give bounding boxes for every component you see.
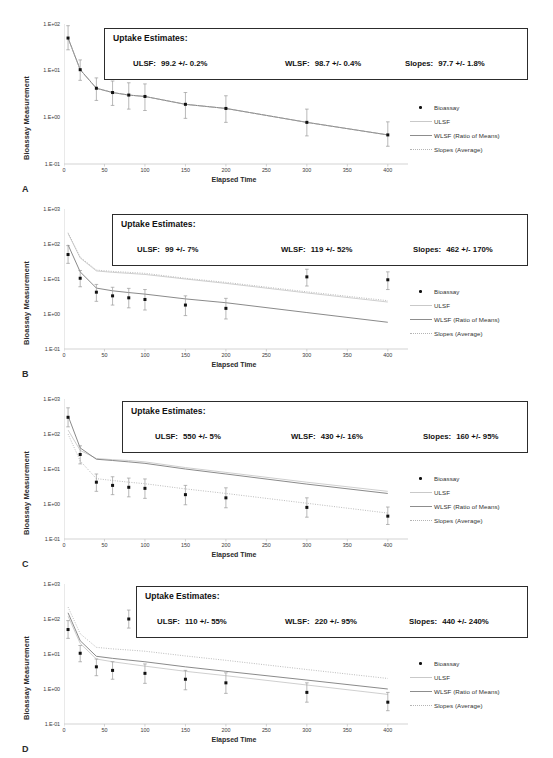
- y-axis-label: Bioassay Measurement: [22, 451, 31, 535]
- legend-item-slopes-average: Slopes (Average): [408, 698, 500, 712]
- estimate-wlsf: WLSF:119 +/- 52%: [281, 245, 353, 254]
- bioassay-marker: [184, 103, 187, 106]
- y-axis-tick: 1.E-01: [26, 721, 60, 727]
- estimate-wlsf: WLSF:98.7 +/- 0.4%: [285, 59, 361, 68]
- legend-label: Slopes (Average): [434, 517, 483, 524]
- y-axis-tick: 1.E+01: [26, 466, 60, 472]
- legend-label: Slopes (Average): [434, 146, 483, 153]
- bioassay-marker: [111, 294, 114, 297]
- data-point: [143, 664, 147, 683]
- line-swatch-ulsf-icon: [408, 116, 434, 126]
- chart-panel-a: Bioassay Measurement1.E+021.E+011.E+001.…: [0, 14, 553, 199]
- bioassay-marker: [67, 416, 70, 419]
- bioassay-marker: [386, 278, 389, 281]
- y-axis-tick: 1.E+02: [26, 241, 60, 247]
- panel-letter-d: D: [22, 744, 29, 754]
- data-point: [127, 83, 131, 109]
- bioassay-marker: [111, 484, 114, 487]
- y-axis-tick: 1.E-01: [26, 346, 60, 352]
- legend-item-wlsf-ratio-of-means: WLSF (Ratio of Means): [408, 128, 500, 142]
- legend-label: Bioassay: [434, 475, 460, 482]
- uptake-estimates-title: Uptake Estimates:: [131, 406, 206, 416]
- legend-label: Slopes (Average): [434, 702, 483, 709]
- y-axis-tick: 1.E+03: [26, 206, 60, 212]
- estimate-wlsf: WLSF:430 +/- 16%: [291, 432, 363, 441]
- panel-letter-a: A: [22, 184, 29, 194]
- y-axis-tick: 1.E+00: [26, 501, 60, 507]
- estimate-value: 97.7 +/- 1.8%: [438, 59, 485, 68]
- bioassay-marker: [143, 95, 146, 98]
- chart-legend: BioassayULSFWLSF (Ratio of Means)Slopes …: [408, 471, 500, 527]
- bioassay-marker: [79, 68, 82, 71]
- data-point: [305, 683, 309, 702]
- y-axis-tick: 1.E+01: [26, 651, 60, 657]
- estimate-slopes: Slopes:462 +/- 170%: [413, 245, 493, 254]
- estimate-value: 430 +/- 16%: [321, 432, 363, 441]
- bioassay-marker: [127, 296, 130, 299]
- data-point: [184, 670, 188, 689]
- data-point: [66, 408, 70, 427]
- y-axis-tick: 1.E+02: [26, 21, 60, 27]
- legend-item-ulsf: ULSF: [408, 485, 500, 499]
- bioassay-marker: [184, 678, 187, 681]
- legend-item-slopes-average: Slopes (Average): [408, 326, 500, 340]
- y-axis-tick: 1.E-01: [26, 161, 60, 167]
- legend-label: Bioassay: [434, 288, 460, 295]
- estimate-label: WLSF:: [285, 59, 310, 68]
- bioassay-marker: [67, 253, 70, 256]
- legend-label: ULSF: [434, 674, 450, 681]
- chart-panel-b: Bioassay Measurement1.E+031.E+021.E+011.…: [0, 199, 553, 384]
- line-swatch-ulsf-icon: [408, 487, 434, 497]
- estimate-value: 99.2 +/- 0.2%: [161, 59, 208, 68]
- legend-item-wlsf-ratio-of-means: WLSF (Ratio of Means): [408, 312, 500, 326]
- uptake-estimates-box: Uptake Estimates:ULSF:99.2 +/- 0.2%WLSF:…: [104, 28, 528, 80]
- bioassay-marker: [224, 496, 227, 499]
- legend-label: Bioassay: [434, 660, 460, 667]
- y-axis-tick: 1.E+00: [26, 311, 60, 317]
- chart-legend: BioassayULSFWLSF (Ratio of Means)Slopes …: [408, 656, 500, 712]
- data-point: [143, 479, 147, 498]
- y-axis-tick: 1.E+02: [26, 616, 60, 622]
- x-axis-label: Elapsed Time: [64, 736, 404, 743]
- legend-label: ULSF: [434, 302, 450, 309]
- uptake-estimates-box: Uptake Estimates:ULSF:99 +/- 7%WLSF:119 …: [112, 214, 528, 266]
- legend-item-ulsf: ULSF: [408, 670, 500, 684]
- line-swatch-wlsf-icon: [408, 130, 434, 140]
- legend-label: WLSF (Ratio of Means): [434, 503, 500, 510]
- uptake-estimates-title: Uptake Estimates:: [113, 33, 188, 43]
- chart-panel-c: Bioassay Measurement1.E+031.E+021.E+011.…: [0, 389, 553, 574]
- data-point: [111, 287, 115, 305]
- bioassay-marker: [386, 701, 389, 704]
- uptake-estimates-title: Uptake Estimates:: [145, 591, 220, 601]
- bioassay-marker: [224, 681, 227, 684]
- chart-legend: BioassayULSFWLSF (Ratio of Means)Slopes …: [408, 100, 500, 156]
- data-point: [143, 84, 147, 111]
- data-point: [305, 498, 309, 517]
- bioassay-marker: [127, 618, 130, 621]
- legend-item-bioassay: Bioassay: [408, 471, 500, 485]
- estimate-label: ULSF:: [157, 617, 180, 626]
- legend-label: Slopes (Average): [434, 330, 483, 337]
- panel-letter-b: B: [22, 369, 29, 379]
- bioassay-marker: [305, 691, 308, 694]
- line-swatch-slopes-icon: [408, 144, 434, 154]
- data-point: [95, 78, 99, 101]
- x-axis-label: Elapsed Time: [64, 551, 404, 558]
- chart-panel-d: Bioassay Measurement1.E+031.E+021.E+011.…: [0, 574, 553, 758]
- bioassay-marker: [79, 453, 82, 456]
- bioassay-marker-icon: [408, 102, 434, 112]
- bioassay-marker: [184, 304, 187, 307]
- bioassay-marker: [224, 307, 227, 310]
- legend-label: ULSF: [434, 118, 450, 125]
- legend-item-bioassay: Bioassay: [408, 656, 500, 670]
- estimate-label: Slopes:: [413, 245, 441, 254]
- bioassay-marker-icon: [408, 286, 434, 296]
- estimate-ulsf: ULSF:550 +/- 5%: [155, 432, 221, 441]
- y-axis-tick: 1.E+03: [26, 581, 60, 587]
- data-point: [224, 96, 228, 123]
- data-point: [127, 478, 131, 497]
- estimate-value: 110 +/- 55%: [185, 617, 227, 626]
- estimate-label: ULSF:: [133, 59, 156, 68]
- line-swatch-slopes-icon: [408, 515, 434, 525]
- panel-letter-c: C: [22, 559, 29, 569]
